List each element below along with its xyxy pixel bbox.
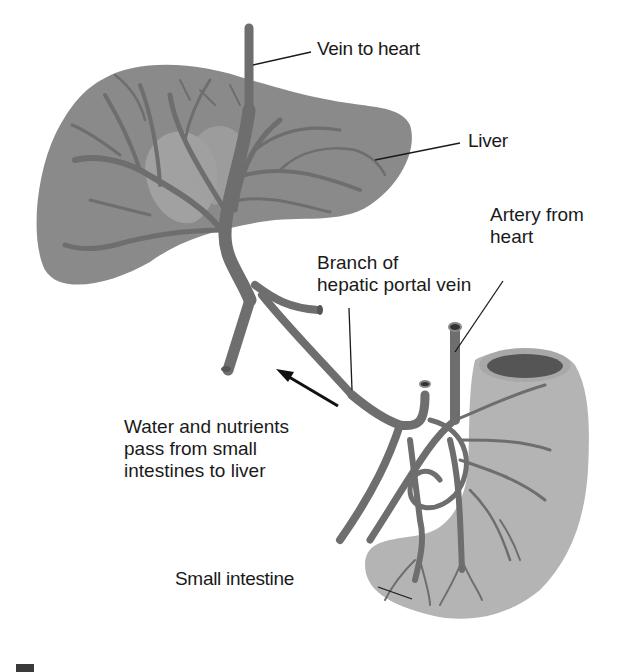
label-artery-from-heart: Artery from heart	[490, 204, 584, 248]
leader-branch	[349, 308, 352, 390]
label-water-nutrients: Water and nutrients pass from small inte…	[124, 416, 289, 482]
vessel-end-right	[317, 305, 323, 315]
vein-end	[420, 381, 430, 387]
label-vein-to-heart: Vein to heart	[317, 38, 420, 60]
artery-end	[449, 323, 461, 331]
vessel-end-left	[221, 366, 231, 372]
label-branch-hepatic-portal-vein: Branch of hepatic portal vein	[317, 252, 471, 296]
label-liver: Liver	[468, 130, 508, 152]
label-small-intestine: Small intestine	[175, 568, 294, 590]
leader-vein-to-heart	[253, 52, 311, 65]
corner-mark	[16, 664, 34, 672]
